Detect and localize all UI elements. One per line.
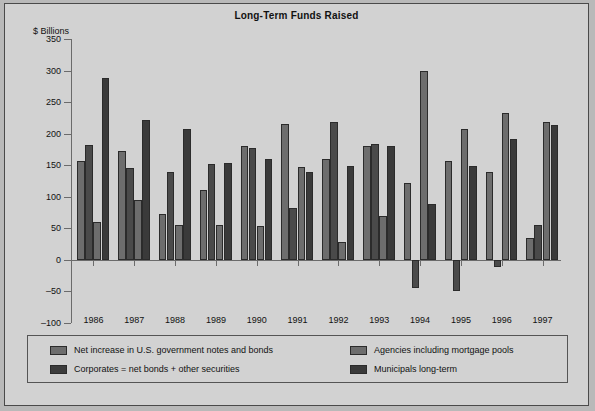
bar (420, 71, 428, 260)
bar (387, 146, 395, 260)
bar-group (77, 39, 109, 323)
y-tick-label: 250 (46, 97, 61, 107)
bar (543, 122, 551, 260)
bar (510, 139, 518, 260)
y-tick-label: 150 (46, 160, 61, 170)
chart-title: Long-Term Funds Raised (5, 10, 588, 21)
y-tick-label: 200 (46, 129, 61, 139)
bar (175, 225, 183, 260)
y-tick (64, 39, 71, 40)
bar (241, 146, 249, 260)
y-tick-label: 350 (46, 34, 61, 44)
bar (428, 204, 436, 260)
y-tick-label: 300 (46, 66, 61, 76)
bar (371, 144, 379, 259)
bar (77, 161, 85, 260)
y-tick (64, 228, 71, 229)
bar-group (200, 39, 232, 323)
legend-item-2: Agencies including mortgage pools (350, 345, 514, 355)
bar (257, 226, 265, 259)
legend-item-1: Corporates = net bonds + other securitie… (50, 364, 240, 374)
bar (551, 125, 559, 259)
bar-group (526, 39, 558, 323)
y-tick (64, 134, 71, 135)
bar (412, 260, 420, 288)
y-tick (64, 102, 71, 103)
bar (461, 129, 469, 260)
y-tick-label: 0 (56, 255, 61, 265)
y-tick-label: 100 (46, 192, 61, 202)
bar (469, 166, 477, 259)
bar (85, 145, 93, 260)
bar (445, 161, 453, 260)
bar (142, 120, 150, 259)
plot-area: 350300250200150100500–50–100 19861987198… (71, 39, 561, 323)
y-tick-label: 50 (51, 223, 61, 233)
bar-group (486, 39, 518, 323)
bar (93, 222, 101, 260)
bar (322, 159, 330, 260)
legend-item-0: Net increase in U.S. government notes an… (50, 345, 273, 355)
chart-legend: Net increase in U.S. government notes an… (27, 335, 568, 383)
legend-item-3: Municipals long-term (350, 364, 457, 374)
bar (379, 216, 387, 260)
bar (249, 148, 257, 260)
legend-swatch-0 (50, 346, 67, 355)
legend-swatch-3 (350, 365, 367, 374)
bar (183, 129, 191, 260)
y-tick-label: –50 (46, 286, 61, 296)
y-tick (64, 260, 71, 261)
bar-group (445, 39, 477, 323)
bar (126, 168, 134, 260)
y-tick (64, 197, 71, 198)
bar (289, 208, 297, 260)
bar (526, 238, 534, 260)
bar (134, 200, 142, 260)
bar (298, 167, 306, 260)
bar (347, 166, 355, 259)
bar (363, 146, 371, 260)
bar (494, 260, 502, 267)
bar (338, 242, 346, 260)
y-tick (64, 323, 71, 324)
bar (118, 151, 126, 260)
bar (216, 225, 224, 260)
bar (502, 113, 510, 259)
bar-group (322, 39, 354, 323)
bar-group (159, 39, 191, 323)
bar (486, 172, 494, 260)
legend-label-2: Agencies including mortgage pools (374, 345, 514, 355)
bar-group (241, 39, 273, 323)
legend-label-0: Net increase in U.S. government notes an… (74, 345, 273, 355)
bar-group (118, 39, 150, 323)
bar-group (363, 39, 395, 323)
bar-group (404, 39, 436, 323)
bar (265, 159, 273, 260)
bar-group (281, 39, 313, 323)
legend-swatch-2 (350, 346, 367, 355)
bar (224, 163, 232, 260)
chart-figure: Long-Term Funds Raised $ Billions 350300… (4, 3, 589, 406)
bar (159, 214, 167, 260)
y-axis-line (71, 39, 72, 323)
y-tick-label: –100 (41, 318, 61, 328)
legend-swatch-1 (50, 365, 67, 374)
bar (200, 190, 208, 259)
bar (306, 172, 314, 260)
bar (208, 164, 216, 260)
bar (330, 122, 338, 260)
bar (281, 124, 289, 260)
y-tick (64, 291, 71, 292)
bar (167, 172, 175, 260)
bar (102, 78, 110, 260)
y-tick (64, 71, 71, 72)
bar (534, 225, 542, 260)
legend-label-3: Municipals long-term (374, 364, 457, 374)
legend-label-1: Corporates = net bonds + other securitie… (74, 364, 240, 374)
bar (404, 183, 412, 260)
y-tick (64, 165, 71, 166)
bar (453, 260, 461, 292)
